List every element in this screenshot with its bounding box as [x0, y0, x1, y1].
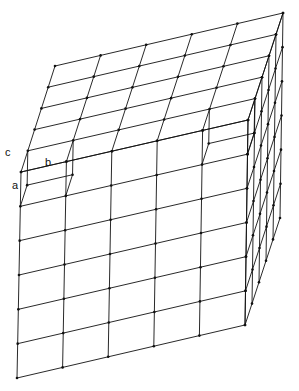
lattice-wireframe: [0, 0, 299, 391]
label-c: c: [5, 146, 11, 158]
label-b: b: [45, 156, 51, 168]
lattice-diagram: c b a: [0, 0, 299, 391]
label-a: a: [12, 179, 18, 191]
